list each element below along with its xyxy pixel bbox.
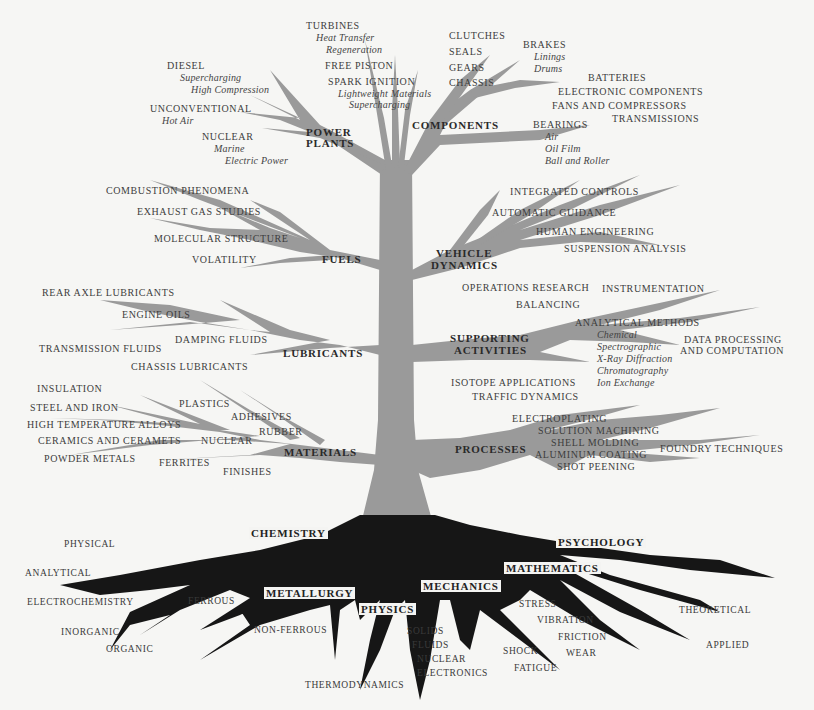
branch-label-supporting-2: ACTIVITIES [454, 344, 527, 356]
branch-label-supporting-1: SUPPORTING [450, 332, 530, 344]
root-label-mechanics: MECHANICS [421, 580, 501, 592]
comp-item-clutches: CLUTCHES [449, 30, 505, 42]
power-sub-electric-power: Electric Power [225, 155, 288, 167]
mech-item-vibration: VIBRATION [537, 614, 594, 626]
chem-item-electrochemistry: ELECTROCHEMISTRY [27, 596, 134, 608]
proc-item-electroplating: ELECTROPLATING [512, 413, 607, 425]
chem-item-inorganic: INORGANIC [61, 626, 120, 638]
root-label-mathematics: MATHEMATICS [504, 562, 601, 574]
root-label-chemistry: CHEMISTRY [249, 527, 328, 539]
comp-item-batteries: BATTERIES [588, 72, 646, 84]
sa-item-and-computation: AND COMPUTATION [680, 345, 784, 357]
fuels-item-volatility: VOLATILITY [192, 254, 257, 266]
root-label-physics: PHYSICS [359, 603, 416, 615]
chem-item-analytical: ANALYTICAL [25, 567, 91, 579]
power-item-spark-ignition: SPARK IGNITION [328, 76, 415, 88]
fuels-item-exhaust: EXHAUST GAS STUDIES [137, 206, 261, 218]
mat-item-rubber: RUBBER [259, 426, 303, 438]
sa-item-instrumentation: INSTRUMENTATION [602, 283, 705, 295]
mech-item-fatigue: FATIGUE [514, 662, 557, 674]
chem-item-physical: PHYSICAL [64, 538, 115, 550]
lub-item-transmission-fluids: TRANSMISSION FLUIDS [39, 343, 162, 355]
phys-item-solids: SOLIDS [407, 625, 444, 637]
comp-item-chassis: CHASSIS [449, 77, 494, 89]
vd-item-suspension-analysis: SUSPENSION ANALYSIS [564, 243, 686, 255]
lub-item-chassis-lubricants: CHASSIS LUBRICANTS [131, 361, 248, 373]
proc-item-solution-machining: SOLUTION MACHINING [538, 425, 660, 437]
sa-sub-x-ray: X-Ray Diffraction [597, 353, 672, 365]
proc-item-shot-peening: SHOT PEENING [557, 461, 635, 473]
phys-item-thermodynamics: THERMODYNAMICS [305, 679, 404, 691]
branch-label-vehicle-dynamics-1: VEHICLE [436, 247, 492, 259]
mat-item-insulation: INSULATION [37, 383, 102, 395]
mat-item-nuclear: NUCLEAR [201, 435, 252, 447]
branch-label-materials: MATERIALS [284, 446, 357, 458]
comp-item-brakes: BRAKES [523, 39, 566, 51]
branch-label-processes: PROCESSES [455, 443, 526, 455]
mat-item-plastics: PLASTICS [179, 398, 230, 410]
lub-item-engine-oils: ENGINE OILS [122, 309, 191, 321]
comp-item-gears: GEARS [449, 62, 485, 74]
metal-item-ferrous: FERROUS [188, 595, 235, 607]
mech-item-friction: FRICTION [558, 631, 607, 643]
math-item-theoretical: THEORETICAL [679, 604, 751, 616]
comp-sub-drums: Drums [534, 63, 562, 75]
sa-item-operations-research: OPERATIONS RESEARCH [462, 282, 589, 294]
comp-sub-linings: Linings [534, 51, 565, 63]
fuels-item-combustion: COMBUSTION PHENOMENA [106, 185, 249, 197]
power-item-nuclear: NUCLEAR [202, 131, 253, 143]
power-sub-heat-transfer: Heat Transfer [316, 32, 374, 44]
comp-item-bearings: BEARINGS [533, 119, 588, 131]
phys-item-fluids: FLUIDS [412, 639, 449, 651]
mech-item-wear: WEAR [566, 647, 596, 659]
mat-item-powder-metals: POWDER METALS [44, 453, 136, 465]
sa-item-traffic-dynamics: TRAFFIC DYNAMICS [472, 391, 579, 403]
power-sub-marine: Marine [214, 143, 245, 155]
power-sub-supercharging-spark: Supercharging [349, 99, 410, 111]
branch-label-fuels: FUELS [322, 253, 361, 265]
research-tree-diagram: POWER PLANTS TURBINES Heat Transfer Rege… [0, 0, 814, 710]
phys-item-nuclear: NUCLEAR [417, 653, 466, 665]
proc-item-shell-molding: SHELL MOLDING [551, 437, 639, 449]
power-sub-supercharging-diesel: Supercharging [180, 72, 241, 84]
sa-sub-spectrographic: Spectrographic [597, 341, 661, 353]
proc-item-foundry-techniques: FOUNDRY TECHNIQUES [660, 443, 783, 455]
power-item-free-piston: FREE PISTON [325, 60, 393, 72]
sa-item-isotope-applications: ISOTOPE APPLICATIONS [451, 377, 576, 389]
power-item-unconventional: UNCONVENTIONAL [150, 103, 252, 115]
chem-item-organic: ORGANIC [106, 643, 153, 655]
power-item-diesel: DIESEL [167, 60, 205, 72]
comp-item-electronic-components: ELECTRONIC COMPONENTS [558, 86, 703, 98]
mat-item-high-temp-alloys: HIGH TEMPERATURE ALLOYS [27, 419, 181, 431]
comp-sub-ball-roller: Ball and Roller [545, 155, 610, 167]
mech-item-stress: STRESS [519, 598, 556, 610]
branch-label-power-plants-2: PLANTS [306, 137, 354, 149]
lub-item-rear-axle: REAR AXLE LUBRICANTS [42, 287, 175, 299]
comp-sub-oil-film: Oil Film [545, 143, 581, 155]
comp-item-transmissions: TRANSMISSIONS [612, 113, 699, 125]
math-item-applied: APPLIED [706, 639, 749, 651]
mat-item-adhesives: ADHESIVES [231, 411, 292, 423]
sa-item-balancing: BALANCING [516, 299, 580, 311]
mat-item-finishes: FINISHES [223, 466, 272, 478]
power-sub-high-compression: High Compression [191, 84, 269, 96]
comp-item-seals: SEALS [449, 46, 483, 58]
sa-sub-chemical: Chemical [597, 329, 637, 341]
mat-item-steel-iron: STEEL AND IRON [30, 402, 119, 414]
power-item-turbines: TURBINES [306, 20, 360, 32]
vd-item-integrated-controls: INTEGRATED CONTROLS [510, 186, 639, 198]
lub-item-damping-fluids: DAMPING FLUIDS [175, 334, 268, 346]
metal-item-non-ferrous: NON-FERROUS [254, 624, 327, 636]
sa-sub-chromatography: Chromatography [597, 365, 668, 377]
root-label-psychology: PSYCHOLOGY [556, 536, 646, 548]
comp-item-fans-compressors: FANS AND COMPRESSORS [552, 100, 687, 112]
sa-item-analytical-methods: ANALYTICAL METHODS [575, 317, 700, 329]
proc-item-aluminum-coating: ALUMINUM COATING [535, 449, 647, 461]
branch-label-lubricants: LUBRICANTS [283, 347, 363, 359]
mat-item-ferrites: FERRITES [159, 457, 210, 469]
mat-item-ceramics: CERAMICS AND CERAMETS [38, 435, 181, 447]
power-sub-hot-air: Hot Air [162, 115, 194, 127]
mech-item-shock: SHOCK [503, 645, 538, 657]
phys-item-electronics: ELECTRONICS [417, 667, 488, 679]
vd-item-human-engineering: HUMAN ENGINEERING [536, 226, 654, 238]
